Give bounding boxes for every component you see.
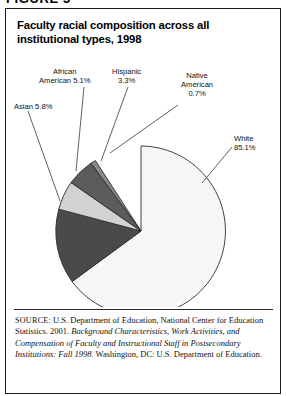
figure-page: FIGURE 3 Faculty racial composition acro… xyxy=(0,0,286,396)
source-text-2: Washington, DC: U.S. Department of Educa… xyxy=(94,349,262,359)
figure-number-header: FIGURE 3 xyxy=(6,0,71,6)
source-prefix: SOURCE: xyxy=(15,316,51,325)
pie-label-native-american-line3: 0.7% xyxy=(188,89,205,98)
figure-title: Faculty racial composition across all in… xyxy=(17,19,263,46)
pie-label-native-american-line1: Native xyxy=(186,71,208,80)
pie-label-white-line2: 85.1% xyxy=(234,143,256,152)
source-divider xyxy=(14,309,273,310)
pie-label-african-american: African American 5.1% xyxy=(39,67,91,85)
pie-label-white: White 85.1% xyxy=(234,134,256,152)
pie-label-hispanic-line2: 3.3% xyxy=(118,76,135,85)
pie-label-asian-line1: Asian 5.8% xyxy=(14,102,52,111)
pie-label-african-american-line1: African xyxy=(53,67,77,76)
leader-line-white xyxy=(202,147,232,183)
pie-label-asian: Asian 5.8% xyxy=(14,102,52,111)
pie-label-hispanic-line1: Hispanic xyxy=(112,67,141,76)
pie-label-native-american: Native American 0.7% xyxy=(181,71,213,99)
leader-line-asian xyxy=(28,111,60,201)
source-note: SOURCE: U.S. Department of Education, Na… xyxy=(15,315,273,360)
figure-box: Faculty racial composition across all in… xyxy=(5,8,281,394)
pie-label-native-american-line2: American xyxy=(181,80,213,89)
pie-label-hispanic: Hispanic 3.3% xyxy=(112,67,141,85)
pie-chart-svg xyxy=(6,49,279,307)
leader-line-african-american xyxy=(76,87,84,171)
pie-label-white-line1: White xyxy=(234,134,253,143)
pie-label-african-american-line2: American 5.1% xyxy=(39,76,91,85)
pie-chart: African American 5.1% Hispanic 3.3% Nati… xyxy=(6,49,279,307)
